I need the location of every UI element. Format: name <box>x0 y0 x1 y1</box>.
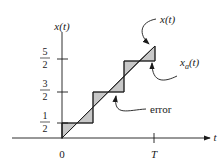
svg-text:2: 2 <box>43 123 48 134</box>
svg-text:2: 2 <box>43 91 48 102</box>
svg-text:1: 1 <box>43 110 48 121</box>
svg-text:3: 3 <box>43 78 48 89</box>
annotation-error-label: error <box>150 103 172 115</box>
annotation-approx-label: xa(t) <box>179 56 200 71</box>
y-tick-label-three-halves: 3 2 <box>40 78 50 102</box>
origin-label: 0 <box>59 148 65 160</box>
y-axis-label: x(t) <box>53 20 70 33</box>
y-tick-label-five-halves: 5 2 <box>40 46 50 70</box>
annotation-error-pointer <box>116 96 146 111</box>
svg-text:5: 5 <box>43 46 48 57</box>
y-tick-label-half: 1 2 <box>40 110 50 134</box>
x-axis-label: t <box>213 131 217 143</box>
svg-text:xa(t): xa(t) <box>179 56 200 71</box>
annotation-signal-pointer <box>142 19 156 44</box>
annotation-signal-label: x(t) <box>159 13 176 26</box>
ramp-signal <box>62 46 155 138</box>
annotation-approx-pointer <box>152 63 177 80</box>
quantization-diagram: 1 2 3 2 5 2 x(t) t 0 T x(t) xa(t) error <box>0 0 219 165</box>
x-tick-label-T: T <box>151 148 158 160</box>
svg-text:2: 2 <box>43 59 48 70</box>
